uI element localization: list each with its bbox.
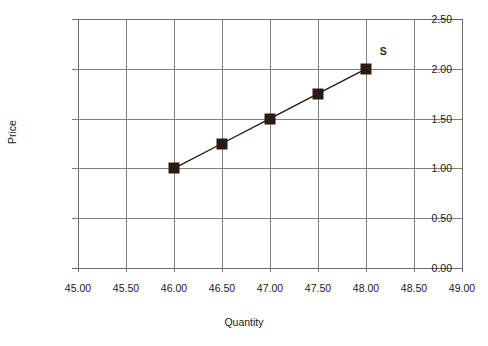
data-point-marker [313,88,324,99]
y-tick-label: 0.50 [432,212,452,224]
x-tick-label: 48.50 [401,282,427,294]
y-tick-label: 2.00 [432,63,452,75]
x-tick-label: 45.00 [65,282,91,294]
x-tick-label: 45.50 [113,282,139,294]
x-tick-label: 47.00 [257,282,283,294]
supply-curve-chart: Price Quantity S 0.000.501.001.502.002.5… [0,0,488,346]
x-axis-title: Quantity [0,316,488,328]
plot-area: S 0.000.501.001.502.002.50 45.0045.5046.… [78,19,462,268]
series-line-layer [78,19,462,268]
data-point-marker [361,63,372,74]
y-tick-label: 1.00 [432,162,452,174]
x-tick-label: 46.00 [161,282,187,294]
y-axis-title: Price [6,120,18,144]
data-point-marker [217,138,228,149]
y-tick-label: 0.00 [432,262,452,274]
x-tick-label: 47.50 [305,282,331,294]
data-point-marker [265,113,276,124]
series-label-s: S [380,45,387,57]
x-tick-label: 48.00 [353,282,379,294]
y-tick-label: 1.50 [432,113,452,125]
gridline-horizontal [72,268,462,269]
x-tick-label: 49.00 [449,282,475,294]
gridline-vertical [462,19,463,272]
data-point-marker [169,163,180,174]
y-tick-label: 2.50 [432,13,452,25]
x-tick-label: 46.50 [209,282,235,294]
